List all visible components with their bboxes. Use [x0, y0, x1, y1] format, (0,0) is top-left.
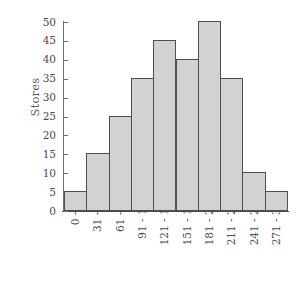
y-axis-tick-label: 45 — [34, 35, 56, 46]
plot-area — [64, 22, 287, 211]
y-axis-tick-label: 35 — [34, 73, 56, 84]
y-axis-tick-mark — [64, 79, 68, 80]
y-axis-tick-mark — [64, 211, 68, 212]
histogram-bar — [265, 191, 288, 211]
y-axis-tick-mark — [64, 22, 68, 23]
histogram-figure: Stores 05101520253035404550 0 - 3031 - 6… — [0, 0, 303, 288]
y-axis-tick-label: 20 — [34, 130, 56, 141]
histogram-bar — [86, 153, 109, 211]
y-axis-tick-mark — [64, 117, 68, 118]
y-axis-tick-mark — [64, 60, 68, 61]
histogram-bar — [109, 116, 132, 212]
histogram-bar — [176, 59, 199, 211]
histogram-bar — [64, 191, 87, 211]
y-axis-tick-label: 40 — [34, 54, 56, 65]
y-axis-tick-mark — [64, 135, 68, 136]
y-axis-tick-label: 10 — [34, 168, 56, 179]
y-axis-tick-labels: 05101520253035404550 — [34, 0, 56, 288]
histogram-bar — [242, 172, 265, 211]
x-axis-tick-labels: 0 - 3031 - 6061 - 9091 - 120121 - 150151… — [64, 211, 287, 288]
y-axis-tick-mark — [64, 154, 68, 155]
y-axis-tick-label: 0 — [34, 206, 56, 217]
y-axis-tick-label: 30 — [34, 92, 56, 103]
histogram-bar — [131, 78, 154, 211]
histogram-bar — [198, 21, 221, 211]
y-axis-tick-mark — [64, 41, 68, 42]
histogram-bar — [153, 40, 176, 211]
y-axis-tick-mark — [64, 173, 68, 174]
y-axis-tick-label: 15 — [34, 149, 56, 160]
y-axis-tick-label: 5 — [34, 187, 56, 198]
y-axis-tick-label: 25 — [34, 111, 56, 122]
histogram-bar — [220, 78, 243, 211]
y-axis-tick-mark — [64, 98, 68, 99]
y-axis-tick-label: 50 — [34, 17, 56, 28]
